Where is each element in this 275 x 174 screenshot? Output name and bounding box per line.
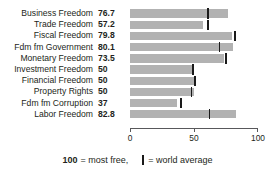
value-bar — [130, 43, 233, 51]
row-category-label: Monetary Freedom — [20, 53, 93, 64]
row-category-label: Business Freedom — [21, 8, 93, 19]
row-category-label: Fdm fm Government — [14, 42, 93, 53]
value-bar — [130, 65, 194, 73]
row-plot-area — [130, 42, 258, 53]
row-category-label: Investment Freedom — [14, 64, 93, 75]
world-average-marker — [209, 109, 211, 119]
row-value-label: 50 — [98, 75, 108, 86]
row-value-label: 79.8 — [98, 30, 115, 41]
value-bar — [130, 9, 228, 17]
row-value-label: 82.8 — [98, 109, 115, 120]
legend-world-average-text: = world average — [148, 155, 212, 165]
x-axis-tick-label: 0 — [128, 133, 133, 143]
row-category-label: Labor Freedom — [34, 109, 93, 120]
row-plot-area — [130, 109, 258, 120]
world-average-marker — [219, 42, 221, 52]
world-average-marker-icon — [142, 155, 144, 165]
x-axis-tick — [257, 128, 258, 132]
freedom-index-bar-chart: Business Freedom76.7Trade Freedom57.2Fis… — [0, 0, 275, 174]
row-category-label: Fiscal Freedom — [34, 30, 93, 41]
x-axis: 050100 — [130, 128, 258, 148]
row-value-label: 50 — [98, 64, 108, 75]
row-plot-area — [130, 64, 258, 75]
chart-row: Financial Freedom50 — [0, 75, 275, 86]
x-axis-tick — [130, 128, 131, 132]
row-plot-area — [130, 98, 258, 109]
world-average-marker — [225, 53, 227, 63]
row-value-label: 80.1 — [98, 42, 115, 53]
chart-rows: Business Freedom76.7Trade Freedom57.2Fis… — [0, 8, 275, 120]
chart-row: Fdm fm Corruption37 — [0, 98, 275, 109]
x-axis-tick-label: 100 — [251, 133, 265, 143]
value-bar — [130, 99, 177, 107]
world-average-marker — [207, 8, 209, 18]
row-category-label: Trade Freedom — [34, 19, 93, 30]
row-plot-area — [130, 53, 258, 64]
value-bar — [130, 110, 236, 118]
x-axis-tick — [194, 128, 195, 132]
clipped-title-remnant — [6, 0, 156, 4]
value-bar — [130, 32, 232, 40]
chart-row: Monetary Freedom73.5 — [0, 53, 275, 64]
row-plot-area — [130, 30, 258, 41]
world-average-marker — [180, 98, 182, 108]
legend-most-free-text: = most free, — [81, 155, 129, 165]
world-average-marker — [191, 87, 193, 97]
chart-row: Trade Freedom57.2 — [0, 19, 275, 30]
row-value-label: 57.2 — [98, 19, 115, 30]
chart-row: Investment Freedom50 — [0, 64, 275, 75]
row-value-label: 50 — [98, 86, 108, 97]
row-value-label: 73.5 — [98, 53, 115, 64]
chart-row: Labor Freedom82.8 — [0, 109, 275, 120]
row-category-label: Financial Freedom — [22, 75, 93, 86]
row-category-label: Fdm fm Corruption — [21, 98, 93, 109]
chart-row: Property Rights50 — [0, 86, 275, 97]
chart-row: Fdm fm Government80.1 — [0, 42, 275, 53]
row-value-label: 37 — [98, 98, 108, 109]
value-bar — [130, 88, 194, 96]
row-plot-area — [130, 19, 258, 30]
chart-legend: 100 = most free, = world average — [0, 152, 275, 168]
row-plot-area — [130, 8, 258, 19]
row-value-label: 76.7 — [98, 8, 115, 19]
x-axis-tick-label: 50 — [189, 133, 198, 143]
value-bar — [130, 54, 224, 62]
row-category-label: Property Rights — [34, 86, 93, 97]
row-plot-area — [130, 75, 258, 86]
world-average-marker — [194, 76, 196, 86]
value-bar — [130, 77, 194, 85]
legend-max-value: 100 — [63, 155, 78, 165]
chart-row: Fiscal Freedom79.8 — [0, 30, 275, 41]
world-average-marker — [234, 31, 236, 41]
world-average-marker — [207, 20, 209, 30]
world-average-marker — [192, 64, 194, 74]
row-plot-area — [130, 86, 258, 97]
value-bar — [130, 21, 203, 29]
chart-row: Business Freedom76.7 — [0, 8, 275, 19]
